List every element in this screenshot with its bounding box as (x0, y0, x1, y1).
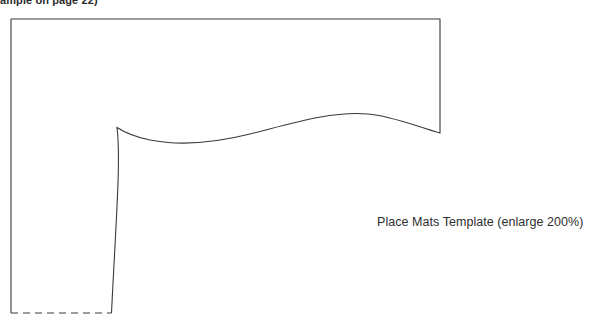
template-page: ample on page 22) Place Mats Template (e… (0, 0, 601, 323)
template-caption: Place Mats Template (enlarge 200%) (377, 214, 583, 230)
template-outline-path (11, 19, 440, 313)
clipped-header-note: ample on page 22) (0, 0, 200, 7)
place-mats-template-diagram (0, 0, 601, 323)
